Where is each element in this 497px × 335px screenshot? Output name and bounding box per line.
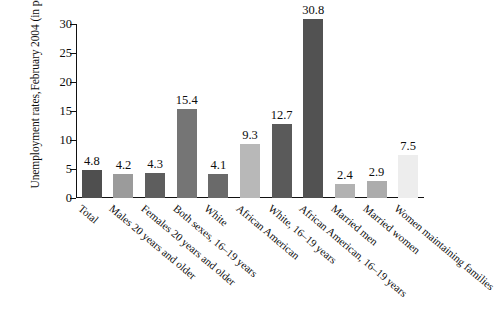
y-tick-label: 15	[60, 105, 73, 118]
bar-value-label: 2.9	[369, 166, 385, 179]
bar-7: 12.7	[272, 24, 292, 198]
y-tick-label: 25	[60, 47, 73, 60]
bar-rect	[208, 174, 228, 198]
bar-rect	[177, 109, 197, 198]
bar-value-label: 9.3	[242, 129, 258, 142]
bar-value-label: 4.1	[211, 159, 227, 172]
bar-rect	[113, 174, 133, 198]
x-axis-labels: TotalMales 20 years and olderFemales 20 …	[76, 200, 444, 335]
bar-10: 2.9	[367, 24, 387, 198]
bar-6: 9.3	[240, 24, 260, 198]
bar-rect	[367, 181, 387, 198]
bar-1: 4.8	[82, 24, 102, 198]
x-axis-label-5: White	[203, 202, 231, 228]
plot-area: 051015202530 4.84.24.315.44.19.312.730.8…	[76, 24, 424, 198]
bar-value-label: 4.3	[147, 158, 163, 171]
bar-value-label: 4.8	[84, 155, 100, 168]
bar-4: 15.4	[177, 24, 197, 198]
bar-value-label: 30.8	[302, 4, 324, 17]
bar-rect	[398, 155, 418, 199]
bar-11: 7.5	[398, 24, 418, 198]
y-tick-label: 30	[60, 18, 73, 31]
bar-value-label: 7.5	[400, 140, 416, 153]
bar-9: 2.4	[335, 24, 355, 198]
bar-value-label: 12.7	[271, 109, 293, 122]
bar-rect	[240, 144, 260, 198]
y-tick-label: 5	[66, 163, 72, 176]
y-tick-label: 0	[66, 192, 72, 205]
bar-rect	[145, 173, 165, 198]
bar-8: 30.8	[303, 24, 323, 198]
bar-rect	[272, 124, 292, 198]
bar-value-label: 4.2	[116, 159, 132, 172]
bar-rect	[82, 170, 102, 198]
y-axis-title-line-2: February 2004 (in percent)	[29, 0, 42, 90]
bar-3: 4.3	[145, 24, 165, 198]
y-tick-label: 20	[60, 76, 73, 89]
bars-layer: 4.84.24.315.44.19.312.730.82.42.97.5	[76, 24, 424, 198]
bar-value-label: 15.4	[176, 94, 198, 107]
bar-value-label: 2.4	[337, 169, 353, 182]
y-axis-title-line-1: Unemployment rates,	[29, 91, 42, 188]
bar-5: 4.1	[208, 24, 228, 198]
bar-rect	[335, 184, 355, 198]
bar-2: 4.2	[113, 24, 133, 198]
bar-rect	[303, 19, 323, 198]
y-tick-label: 10	[60, 134, 73, 147]
y-axis-title: Unemployment rates, February 2004 (in pe…	[18, 0, 52, 174]
x-axis-label-1: Total	[76, 202, 101, 225]
